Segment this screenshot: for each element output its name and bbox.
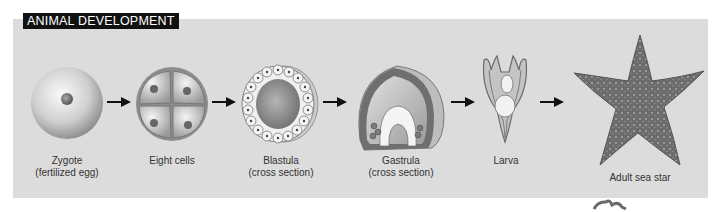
stage-label-gastrula: Gastrula (cross section) (368, 155, 433, 179)
stage-subtitle: (cross section) (248, 167, 313, 179)
sea-star-illustration (572, 33, 707, 169)
stage-label-eight-cells: Eight cells (149, 155, 195, 167)
diagram-title: ANIMAL DEVELOPMENT (23, 13, 179, 29)
stage-name: Gastrula (368, 155, 433, 167)
larva-illustration (479, 50, 531, 145)
stage-name: Zygote (35, 155, 98, 167)
blastula-illustration (240, 64, 320, 144)
stage-label-adult-sea-star: Adult sea star (609, 172, 670, 184)
stage-label-blastula: Blastula (cross section) (248, 155, 313, 179)
gastrula-illustration (352, 60, 448, 154)
zygote-illustration (30, 66, 104, 140)
stage-subtitle: (cross section) (368, 167, 433, 179)
arrow-icon (212, 97, 236, 107)
arrow-icon (107, 97, 131, 107)
stage-name: Eight cells (149, 155, 195, 167)
stage-name: Adult sea star (609, 172, 670, 184)
stage-subtitle: (fertilized egg) (35, 167, 98, 179)
eight-cells-illustration (135, 66, 209, 142)
stage-label-zygote: Zygote (fertilized egg) (35, 155, 98, 179)
stage-label-larva: Larva (493, 155, 518, 167)
arrow-icon (451, 97, 475, 107)
stage-name: Larva (493, 155, 518, 167)
decorative-fragment-icon (592, 197, 632, 212)
stage-name: Blastula (248, 155, 313, 167)
arrow-icon (323, 97, 347, 107)
arrow-icon (540, 97, 564, 107)
